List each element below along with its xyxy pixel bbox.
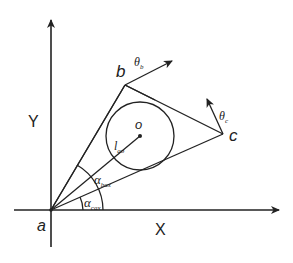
alpha-cax-label: αcax: [84, 195, 101, 212]
point-a-label: a: [37, 217, 46, 234]
arc-alpha-cax: [80, 197, 83, 210]
y-axis-label: Y: [28, 113, 39, 130]
point-c-label: c: [229, 126, 238, 145]
theta-c-label: θc: [219, 109, 229, 125]
line-a-c: [51, 134, 223, 210]
theta-b-label: θb: [134, 55, 144, 71]
center-point-o: [138, 134, 142, 138]
alpha-bax-label: αbax: [94, 172, 112, 189]
diagram-canvas: Y X a b c o θb θc lao αbax αcax: [0, 0, 293, 263]
point-o-label: o: [135, 117, 142, 132]
line-b-tangent: [125, 85, 155, 100]
l-ao-label: lao: [114, 139, 125, 155]
x-axis-label: X: [155, 221, 166, 238]
theta-b-arrow: [125, 61, 172, 85]
point-b-label: b: [116, 62, 125, 81]
origin-point-a: [49, 208, 53, 212]
